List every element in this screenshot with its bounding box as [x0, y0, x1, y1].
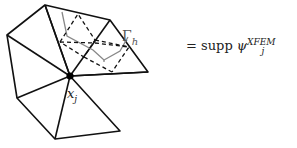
equation-prefix: = supp — [186, 38, 237, 53]
psi-symbol: ψ — [237, 38, 247, 53]
support-equation: = supp ψXFEMj — [186, 37, 264, 56]
mesh-edges — [7, 5, 148, 139]
interface-label: Γh — [122, 28, 138, 47]
node-label: xj — [67, 86, 77, 104]
psi-subscript: j — [262, 46, 265, 56]
mesh-edge — [45, 5, 70, 76]
node-xj-dot — [66, 72, 73, 79]
mesh-edge — [17, 76, 70, 98]
mesh-diagram — [0, 0, 297, 148]
gamma-subscript: h — [132, 36, 138, 47]
node-subscript: j — [74, 94, 77, 104]
mesh-edge — [70, 72, 148, 76]
interface-curve — [62, 12, 128, 60]
gamma-symbol: Γ — [122, 28, 132, 44]
